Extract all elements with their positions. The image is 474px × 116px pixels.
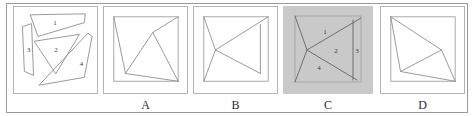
option-a-cuts: [114, 17, 178, 82]
option-c-drawing: 1 2 3 4: [283, 6, 373, 94]
piece-label-4: 4: [80, 60, 84, 67]
option-b-cuts: [204, 17, 268, 82]
pieces-drawing: 1 3 2 4: [14, 7, 97, 93]
option-a-drawing: [104, 7, 187, 93]
dissection-figure: 1 3 2 4 A B 1 2 3 4 C: [0, 0, 474, 116]
option-c-square: [295, 16, 361, 82]
option-c-piece-label-1: 1: [323, 28, 327, 36]
label-option-a: A: [103, 96, 188, 114]
piece-4-shape: [39, 33, 92, 85]
piece-2-shape: [35, 34, 80, 73]
option-c-piece-label-3: 3: [355, 47, 359, 55]
option-d-cuts: [391, 17, 455, 82]
panel-option-c[interactable]: 1 2 3 4: [283, 6, 373, 94]
option-a-square: [114, 17, 178, 82]
label-option-d: D: [380, 96, 465, 114]
piece-label-2: 2: [54, 46, 58, 53]
option-c-piece-label-2: 2: [334, 47, 338, 55]
option-d-drawing: [381, 7, 464, 93]
panel-option-a[interactable]: [103, 6, 188, 94]
piece-label-1: 1: [53, 19, 56, 26]
panel-option-b[interactable]: [193, 6, 278, 94]
panel-pieces: 1 3 2 4: [13, 6, 98, 94]
option-c-piece-label-4: 4: [317, 64, 321, 72]
piece-label-3: 3: [27, 46, 31, 53]
option-b-square: [204, 17, 268, 82]
option-b-drawing: [194, 7, 277, 93]
panel-option-d[interactable]: [380, 6, 465, 94]
piece-1-shape: [31, 14, 86, 36]
label-option-b: B: [193, 96, 278, 114]
label-option-c: C: [283, 96, 373, 114]
option-c-cuts: [295, 16, 361, 82]
